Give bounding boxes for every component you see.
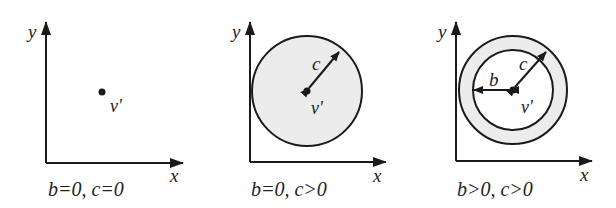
point-label: v' bbox=[521, 97, 534, 117]
panel-caption: b>0, c>0 bbox=[457, 178, 533, 200]
radius-c-label: c bbox=[519, 53, 528, 74]
y-axis-label: y bbox=[230, 21, 241, 42]
panel-3: y x c b v' b>0, c>0 bbox=[436, 21, 592, 200]
x-axis-label: x bbox=[372, 165, 382, 186]
panel-1: y x v' b=0, c=0 bbox=[26, 21, 183, 200]
y-axis-label: y bbox=[436, 21, 447, 42]
point-v-prime bbox=[99, 89, 106, 96]
radius-b-label: b bbox=[489, 69, 499, 90]
panel-caption: b=0, c>0 bbox=[251, 178, 327, 200]
panel-2: y x c v' b=0, c>0 bbox=[230, 21, 386, 200]
y-axis-label: y bbox=[26, 21, 37, 42]
point-v-prime bbox=[510, 87, 517, 94]
point-v-prime bbox=[304, 88, 311, 95]
point-label: v' bbox=[311, 98, 324, 118]
x-axis-label: x bbox=[579, 164, 589, 185]
x-axis-label: x bbox=[169, 165, 179, 186]
figure-canvas: y x v' b=0, c=0 y x c v' b=0, c>0 y x c … bbox=[0, 0, 616, 208]
panel-caption: b=0, c=0 bbox=[48, 178, 124, 200]
point-label: v' bbox=[110, 96, 123, 116]
radius-c-label: c bbox=[312, 53, 321, 74]
